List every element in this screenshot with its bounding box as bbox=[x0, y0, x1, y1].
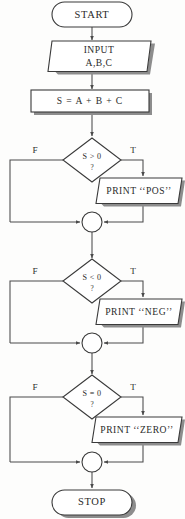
edge-print-pos-to-merge bbox=[104, 205, 143, 222]
edge-neg-false-branch bbox=[10, 281, 63, 343]
branch-label-false-3: F bbox=[32, 382, 37, 392]
decision-pos-label: S > 0 bbox=[82, 152, 101, 161]
edge-pos-true-to-print bbox=[121, 160, 143, 176]
node-print-pos: PRINT ‘‘POS’’ bbox=[96, 178, 185, 207]
edge-print-neg-to-merge bbox=[104, 326, 143, 343]
merge-1-connector-circle bbox=[82, 212, 102, 232]
branch-label-false-2: F bbox=[32, 266, 37, 276]
edge-zero-false-branch bbox=[10, 397, 63, 462]
sum-label: S = A + B + C bbox=[57, 95, 123, 106]
decision-neg-label: S < 0 bbox=[82, 273, 101, 282]
decision-neg-question-mark: ? bbox=[90, 285, 93, 293]
print-zero-label: PRINT ‘‘ZERO’’ bbox=[100, 424, 173, 435]
node-print-neg: PRINT ‘‘NEG’’ bbox=[96, 299, 185, 328]
edge-pos-false-branch bbox=[10, 160, 63, 222]
node-merge-3 bbox=[82, 452, 102, 472]
node-merge-2 bbox=[82, 333, 102, 353]
print-pos-label: PRINT ‘‘POS’’ bbox=[106, 185, 171, 196]
edge-zero-true-to-print bbox=[121, 397, 143, 415]
node-merge-1 bbox=[82, 212, 102, 232]
flowchart-diagram: START INPUT A,B,C S = A + B + C S > 0 ? … bbox=[0, 0, 185, 519]
start-label: START bbox=[75, 9, 110, 20]
edge-print-zero-to-merge bbox=[104, 444, 143, 462]
input-label-line2: A,B,C bbox=[85, 57, 112, 68]
decision-pos-question-mark: ? bbox=[90, 164, 93, 172]
node-stop: STOP bbox=[52, 490, 136, 518]
node-input: INPUT A,B,C bbox=[48, 41, 155, 75]
branch-label-false-1: F bbox=[32, 145, 37, 155]
decision-zero-question-mark: ? bbox=[90, 401, 93, 409]
flowchart-canvas: START INPUT A,B,C S = A + B + C S > 0 ? … bbox=[0, 0, 185, 519]
node-sum: S = A + B + C bbox=[31, 90, 152, 115]
branch-label-true-1: T bbox=[130, 145, 136, 155]
input-label-line1: INPUT bbox=[84, 44, 115, 55]
print-neg-label: PRINT ‘‘NEG’’ bbox=[105, 306, 173, 317]
node-start: START bbox=[52, 2, 132, 27]
branch-label-true-3: T bbox=[130, 382, 136, 392]
node-decision-zero: S = 0 ? bbox=[63, 375, 121, 419]
merge-2-connector-circle bbox=[82, 333, 102, 353]
stop-label: STOP bbox=[78, 496, 106, 507]
node-decision-pos: S > 0 ? bbox=[63, 138, 121, 182]
decision-zero-label: S = 0 bbox=[82, 389, 101, 398]
node-decision-neg: S < 0 ? bbox=[63, 259, 121, 303]
branch-label-true-2: T bbox=[130, 266, 136, 276]
edge-neg-true-to-print bbox=[121, 281, 143, 297]
merge-3-connector-circle bbox=[82, 452, 102, 472]
node-print-zero: PRINT ‘‘ZERO’’ bbox=[92, 417, 185, 446]
